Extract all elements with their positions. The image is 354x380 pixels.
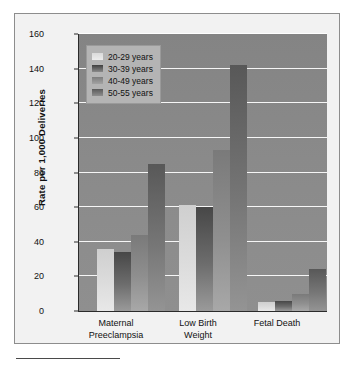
legend-item: 50-55 years <box>92 87 153 98</box>
legend-label: 50-55 years <box>108 88 153 98</box>
legend-item: 20-29 years <box>92 51 153 62</box>
y-axis-tick-label: 100 <box>4 133 44 143</box>
y-axis-tick-label: 160 <box>4 29 44 39</box>
y-axis-tick-label: 60 <box>4 202 44 212</box>
y-axis-tick-label: 140 <box>4 64 44 74</box>
x-axis-tick-label: Fetal Death <box>229 318 325 330</box>
bar-group <box>258 34 326 311</box>
legend-label: 20-29 years <box>108 52 153 62</box>
y-axis-tick-label: 80 <box>4 168 44 178</box>
bar <box>258 302 275 311</box>
y-axis-tick-label: 0 <box>4 306 44 316</box>
legend-swatch-icon <box>92 89 103 96</box>
bar <box>230 65 247 311</box>
bar <box>309 269 326 311</box>
bar <box>148 164 165 311</box>
x-axis-tick-label-line: Fetal Death <box>229 318 325 330</box>
legend-item: 40-49 years <box>92 75 153 86</box>
y-axis-title: Rate per 1,000 Deliveries <box>36 48 47 248</box>
bar <box>179 205 196 311</box>
caption-rule <box>16 358 120 359</box>
bar <box>275 301 292 311</box>
bar <box>196 207 213 311</box>
bar <box>97 249 114 311</box>
legend-swatch-icon <box>92 65 103 72</box>
legend-swatch-icon <box>92 53 103 60</box>
bar <box>131 235 148 311</box>
legend-label: 30-39 years <box>108 64 153 74</box>
chart-legend: 20-29 years30-39 years40-49 years50-55 y… <box>86 45 161 104</box>
x-axis-tick-label-line: Weight <box>150 330 246 342</box>
legend-swatch-icon <box>92 77 103 84</box>
y-axis-tick-label: 40 <box>4 237 44 247</box>
bar-group <box>179 34 247 311</box>
bar <box>292 294 309 311</box>
legend-label: 40-49 years <box>108 76 153 86</box>
y-axis-tick-label: 20 <box>4 271 44 281</box>
y-axis-tick-label: 120 <box>4 98 44 108</box>
figure-frame: Rate per 1,000 Deliveries 02040608010012… <box>14 13 340 344</box>
bar <box>213 150 230 311</box>
bar <box>114 252 131 311</box>
legend-item: 30-39 years <box>92 63 153 74</box>
